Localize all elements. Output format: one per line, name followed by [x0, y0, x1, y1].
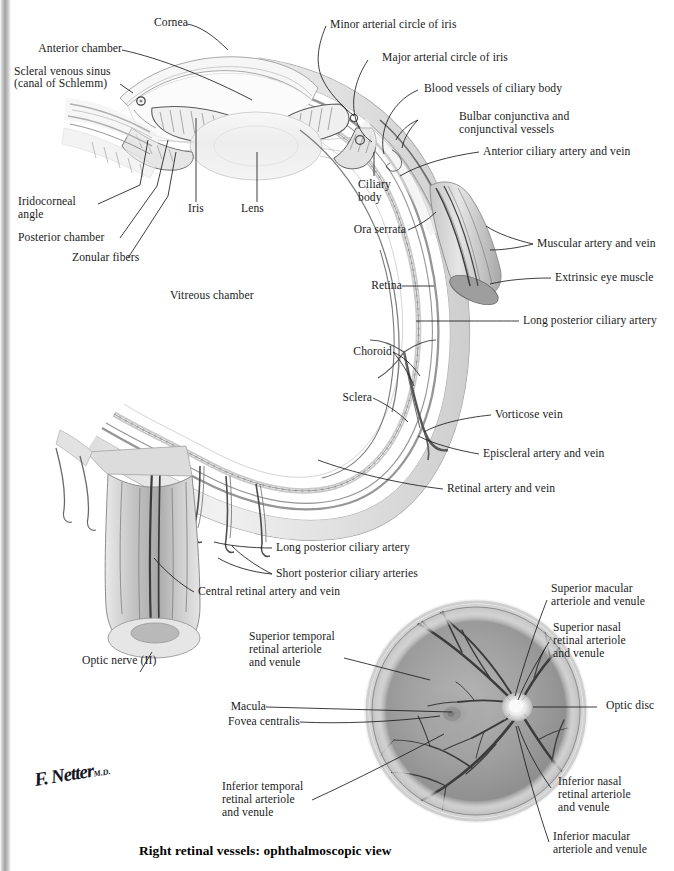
label-superior-nasal-line2: retinal arteriole	[553, 635, 626, 648]
label-superior-macular-line2: arteriole and venule	[551, 596, 645, 609]
label-cornea: Cornea	[98, 17, 188, 30]
label-iris: Iris	[188, 203, 204, 216]
label-macula: Macula	[180, 701, 266, 714]
label-superior-nasal-line1: Superior nasal	[553, 622, 621, 635]
label-iridocorneal-angle-line2: angle	[18, 209, 44, 222]
label-optic-nerve: Optic nerve (II)	[82, 655, 156, 668]
label-iridocorneal-angle-line1: Iridocorneal	[18, 196, 76, 209]
label-scleral-venous-sinus-line2: (canal of Schlemm)	[14, 78, 107, 91]
label-lens: Lens	[241, 203, 264, 216]
label-superior-nasal-line3: and venule	[553, 648, 605, 661]
label-major-arterial-circle: Major arterial circle of iris	[382, 52, 508, 65]
label-ora-serrata: Ora serrata	[318, 224, 406, 237]
label-episcleral-artery-vein: Episcleral artery and vein	[483, 448, 604, 461]
label-central-retinal-artery-vein: Central retinal artery and vein	[198, 586, 340, 599]
label-extrinsic-eye-muscle: Extrinsic eye muscle	[555, 272, 654, 285]
label-inferior-macular-line2: arteriole and venule	[553, 844, 647, 857]
label-inferior-temporal-line1: Inferior temporal	[222, 781, 303, 794]
label-minor-arterial-circle: Minor arterial circle of iris	[330, 19, 457, 32]
label-inferior-nasal-line1: Inferior nasal	[558, 776, 622, 789]
label-muscular-artery-vein: Muscular artery and vein	[537, 238, 656, 251]
label-anterior-chamber: Anterior chamber	[12, 43, 122, 56]
label-superior-macular-line1: Superior macular	[551, 583, 633, 596]
label-vitreous-chamber: Vitreous chamber	[170, 290, 254, 303]
label-inferior-macular-line1: Inferior macular	[553, 831, 630, 844]
plate-title: Right retinal vessels: ophthalmoscopic v…	[139, 843, 392, 859]
label-superior-temporal-line2: retinal arteriole	[249, 644, 322, 657]
label-bulbar-conjunctiva-line1: Bulbar conjunctiva and	[459, 111, 569, 124]
label-inferior-nasal-line3: and venule	[558, 802, 610, 815]
label-inferior-nasal-line2: retinal arteriole	[558, 789, 631, 802]
label-superior-temporal-line1: Superior temporal	[249, 631, 335, 644]
label-optic-disc: Optic disc	[606, 700, 654, 713]
label-long-posterior-ciliary-artery-top: Long posterior ciliary artery	[523, 315, 657, 328]
label-fovea-centralis: Fovea centralis	[180, 716, 300, 729]
label-inferior-temporal-line2: retinal arteriole	[222, 794, 295, 807]
label-choroid: Choroid	[328, 346, 392, 359]
label-retinal-artery-vein: Retinal artery and vein	[447, 483, 555, 496]
label-short-posterior-ciliary-arteries: Short posterior ciliary arteries	[276, 568, 418, 581]
label-sclera: Sclera	[316, 392, 372, 405]
label-zonular-fibers: Zonular fibers	[72, 252, 139, 265]
label-retina: Retina	[338, 280, 402, 293]
label-inferior-temporal-line3: and venule	[222, 807, 274, 820]
label-ciliary-body-line1: Ciliary	[358, 179, 391, 192]
label-blood-vessels-ciliary-body: Blood vessels of ciliary body	[424, 83, 562, 96]
label-ciliary-body-line2: body	[358, 192, 382, 205]
label-long-posterior-ciliary-artery-bottom: Long posterior ciliary artery	[276, 542, 410, 555]
label-vorticose-vein: Vorticose vein	[495, 409, 563, 422]
label-anterior-ciliary-artery-vein: Anterior ciliary artery and vein	[483, 146, 630, 159]
eye-illustration	[0, 0, 674, 871]
label-superior-temporal-line3: and venule	[249, 657, 301, 670]
anatomical-plate: Cornea Anterior chamber Scleral venous s…	[0, 0, 674, 871]
label-posterior-chamber: Posterior chamber	[18, 232, 104, 245]
label-bulbar-conjunctiva-line2: conjunctival vessels	[459, 124, 554, 137]
